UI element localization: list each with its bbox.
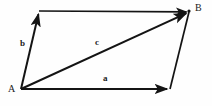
vector-label-b: b (20, 39, 25, 48)
edge-top-line (39, 11, 187, 12)
vertex-b-dot (187, 9, 190, 12)
vector-label-c: c (95, 38, 99, 47)
vector-diagram-canvas (0, 0, 212, 106)
vertex-label-b: B (195, 3, 202, 13)
vector-parallelogram-figure: A B a b c (0, 0, 212, 106)
edge-right-line (170, 12, 189, 89)
vertex-label-a: A (8, 84, 15, 94)
vector-b-line (21, 14, 38, 89)
vector-label-a: a (103, 74, 108, 83)
